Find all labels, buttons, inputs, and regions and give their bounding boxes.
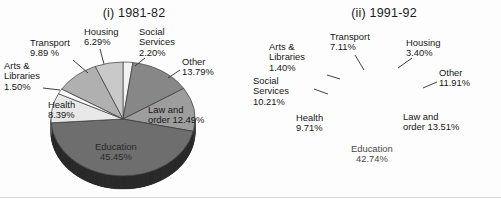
pie-label-line: order 12.49% (148, 115, 204, 125)
chart-panel-1991-92: (ii) 1991-92 Transport7.11%Housing3.40%A… (251, 0, 501, 198)
pie-label-other: Other13.79% (182, 57, 214, 78)
pie-label-line: 9.71% (296, 123, 323, 133)
pie-label-line: 8.39% (48, 110, 75, 120)
pie-label-line: 3.40% (406, 48, 440, 58)
pie-label-line: 6.29% (84, 37, 118, 47)
leader-line-transport (355, 55, 364, 70)
leader-line-transport (73, 60, 88, 73)
pie-label-housing: Housing6.29% (84, 27, 118, 48)
pie-label-arts-libraries: Arts &Libraries1.40% (269, 42, 305, 73)
pie-label-health: Health8.39% (48, 100, 75, 121)
pie-label-line: 42.74% (351, 154, 393, 164)
leader-line-other (168, 70, 180, 78)
leader-line-arts-libraries (327, 75, 340, 79)
pie-label-line: 11.91% (439, 78, 470, 88)
pie-label-education: Education45.45% (95, 142, 137, 163)
leader-line-other (423, 82, 437, 88)
pie-chart-figure: (i) 1981-82 Transport9.89 %Housing6.29%S… (0, 0, 501, 198)
pie-label-line: 7.11% (330, 42, 370, 52)
pie-label-social-services: SocialServices2.20% (139, 27, 175, 58)
pie-label-law-and-order: Law andorder 13.51% (403, 112, 459, 133)
pie-label-line: 9.89 % (30, 48, 70, 58)
leader-line-social-services (314, 89, 328, 94)
pie-label-housing: Housing3.40% (406, 38, 440, 59)
pie-label-law-and-order: Law andorder 12.49% (148, 105, 204, 126)
pie-label-transport: Transport9.89 % (30, 38, 70, 59)
chart-panel-1981-82: (i) 1981-82 Transport9.89 %Housing6.29%S… (0, 0, 250, 198)
pie-label-other: Other11.91% (439, 68, 470, 89)
leader-line-arts-libraries (43, 88, 60, 90)
pie-label-arts-libraries: Arts &Libraries1.50% (4, 61, 40, 92)
pie-label-social-services: SocialServices10.21% (253, 76, 289, 107)
leader-line-housing (398, 58, 412, 68)
pie-label-health: Health9.71% (296, 113, 323, 134)
pie-label-line: 10.21% (253, 97, 289, 107)
pie-label-line: 1.40% (269, 63, 305, 73)
leader-line-housing (100, 49, 104, 64)
pie-label-line: order 13.51% (403, 122, 459, 132)
pie-label-line: 45.45% (95, 152, 137, 162)
pie-label-line: 2.20% (139, 48, 175, 58)
pie-label-education: Education42.74% (351, 144, 393, 165)
pie-label-transport: Transport7.11% (330, 32, 370, 53)
pie-label-line: 1.50% (4, 82, 40, 92)
pie-svg-1981-82 (0, 0, 250, 198)
pie-label-line: 13.79% (182, 67, 214, 77)
